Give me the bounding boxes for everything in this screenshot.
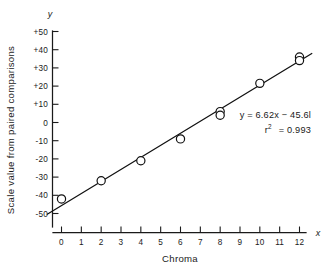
x-tick-label: 4 <box>138 238 143 247</box>
x-tick-label: 5 <box>158 238 163 247</box>
x-tick-label: 8 <box>218 238 223 247</box>
regression-equation-label: y = 6.62x − 45.6l <box>240 110 311 120</box>
scatter-plot: y -50-40-30-20-100+10+20+30+40+50 012345… <box>0 0 331 276</box>
data-point-marker <box>256 79 264 87</box>
data-point-marker <box>216 111 224 119</box>
y-tick-label: -30 <box>36 173 49 182</box>
y-tick-label: +20 <box>34 82 49 91</box>
y-tick-label: -40 <box>36 191 49 200</box>
x-axis-title: Chroma <box>162 253 198 264</box>
y-axis-title: Scale value from paired comparisons <box>5 46 16 214</box>
x-tick-label: 0 <box>59 238 64 247</box>
data-point-marker <box>295 57 303 65</box>
x-axis-ticks: 0123456789101112 <box>59 227 304 248</box>
r-squared-value-label: = 0.993 <box>279 125 311 135</box>
data-point-marker <box>57 195 65 203</box>
data-point-marker <box>137 157 145 165</box>
chart-figure: y -50-40-30-20-100+10+20+30+40+50 012345… <box>0 0 331 276</box>
y-axis-ticks: -50-40-30-20-100+10+20+30+40+50 <box>34 28 59 219</box>
x-axis-marker: x <box>315 228 321 238</box>
x-tick-label: 9 <box>238 238 243 247</box>
x-tick-label: 12 <box>295 238 305 247</box>
y-tick-label: +50 <box>34 28 49 37</box>
y-tick-label: -10 <box>36 137 49 146</box>
x-tick-label: 10 <box>255 238 265 247</box>
data-point-marker <box>97 177 105 185</box>
regression-fit-line <box>47 53 312 214</box>
y-tick-label: -20 <box>36 155 49 164</box>
x-tick-label: 2 <box>99 238 104 247</box>
x-tick-label: 3 <box>119 238 124 247</box>
r-squared-exponent-label: 2 <box>268 123 272 130</box>
y-axis-marker: y <box>47 9 53 19</box>
y-tick-label: +30 <box>34 64 49 73</box>
y-tick-label: -50 <box>36 210 49 219</box>
y-tick-label: 0 <box>43 119 48 128</box>
x-tick-label: 11 <box>275 238 284 247</box>
data-point-marker <box>176 135 184 143</box>
x-tick-label: 1 <box>79 238 84 247</box>
y-tick-label: +40 <box>34 46 49 55</box>
x-tick-label: 7 <box>198 238 203 247</box>
r-squared-label: = 0.993 r 2 <box>265 123 311 136</box>
x-tick-label: 6 <box>178 238 183 247</box>
y-tick-label: +10 <box>34 100 49 109</box>
